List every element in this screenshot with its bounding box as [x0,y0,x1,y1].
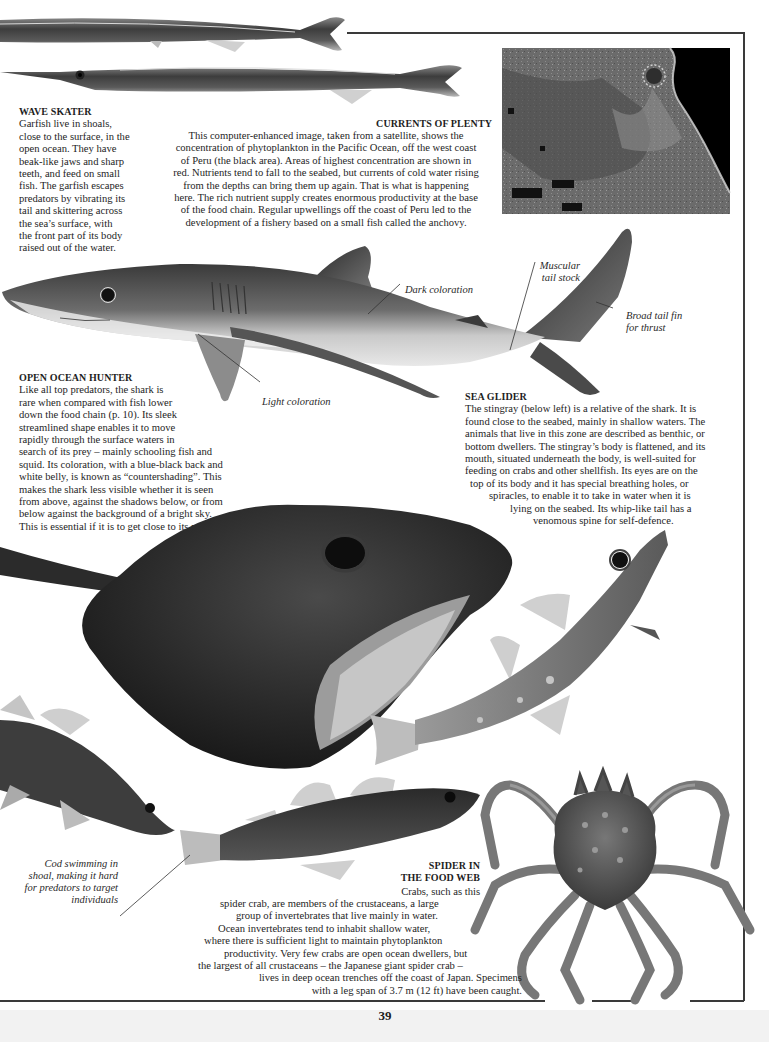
spider-food-web-body: spider crab, are members of the crustace… [204,898,522,997]
broad-tail-fin-label: Broad tail fin for thrust [626,310,726,334]
spider-food-web-first-line: Crabs, such as this [380,886,480,898]
cod-caption-line: shoal, making it hard [0,870,118,882]
frame-bottom-rule-left [0,1000,545,1002]
sea-glider-line: animals that live in this zone are descr… [465,428,740,440]
sea-glider-line: bottom dwellers. The stingray’s body is … [465,441,740,453]
muscular-tail-stock-line: tail stock [500,272,580,284]
currents-line: concentration of phytoplankton in the Pa… [156,142,496,154]
cod-caption-line: individuals [0,894,118,906]
hunter-line: squid. Its coloration, with a blue-black… [19,459,249,471]
dark-coloration-label: Dark coloration [405,284,473,296]
hunter-line: down the food chain (p. 10). Its sleek [19,409,249,421]
garfish-bottom-image [0,60,470,110]
spider-line: group of invertebrates that live mainly … [204,910,522,922]
cod-caption: Cod swimming in shoal, making it hard fo… [0,858,118,906]
sea-glider-line: feeding on crabs and other shellfish. It… [465,465,740,477]
broad-tail-fin-line: Broad tail fin [626,310,726,322]
wave-skater-line: open ocean. They have [19,143,169,155]
spider-line: lives in deep ocean trenches off the coa… [204,972,522,984]
wave-skater-line: predators by vibrating its [19,193,169,205]
spider-line: the largest of all crustaceans – the Jap… [198,960,522,972]
spider-food-web-heading-block: SPIDER IN THE FOOD WEB [380,860,480,885]
spider-line: spider crab, are members of the crustace… [204,898,522,910]
hunter-line: white belly, is known as “countershading… [19,471,249,483]
currents-line: here. The rich nutrient supply creates e… [156,192,496,204]
spider-line: with a leg span of 3.7 m (12 ft) have be… [204,985,522,997]
satellite-image [502,48,730,214]
cod-caption-line: for predators to target [0,882,118,894]
currents-line: from the depths can bring them up again.… [156,180,496,192]
spider-heading-line: THE FOOD WEB [380,872,480,884]
muscular-tail-stock-line: Muscular [500,260,580,272]
wave-skater-line: Garfish live in shoals, [19,118,169,130]
hunter-line: streamlined shape enables it to move [19,422,249,434]
spider-line: productivity. Very few crabs are open oc… [204,948,522,960]
sea-glider-line: mouth, situated underneath the body, is … [465,453,740,465]
wave-skater-line: teeth, and feed on small [19,168,169,180]
wave-skater-line: tail and skittering across [19,205,169,217]
hunter-line: Like all top predators, the shark is [19,384,249,396]
currents-line: red. Nutrients tend to fall to the seabe… [156,167,496,179]
spider-line: Ocean invertebrates tend to inhabit shal… [204,923,522,935]
page-number: 39 [370,1008,400,1024]
cod-left-image [0,690,180,840]
cod-caption-pointer-line [120,850,200,920]
hunter-line: makes the shark less visible whether it … [19,484,249,496]
light-coloration-label: Light coloration [262,396,331,408]
currents-of-plenty-body: This computer-enhanced image, taken from… [156,130,496,229]
sea-glider-line: top of its body and it has special breat… [465,478,740,490]
hunter-line: rapidly through the surface waters in [19,434,249,446]
wave-skater-line: beak-like jaws and sharp [19,156,169,168]
sea-glider-line: The stingray (below left) is a relative … [465,403,740,415]
sea-glider-line: found close to the seabed, mainly in sha… [465,416,740,428]
currents-line: of the food chain. Regular upwellings of… [156,204,496,216]
hunter-line: rare when compared with fish lower [19,397,249,409]
currents-line: This computer-enhanced image, taken from… [156,130,496,142]
wave-skater-line: fish. The garfish escapes [19,180,169,192]
frame-top-rule [347,32,744,34]
broad-tail-fin-line: for thrust [626,322,726,334]
currents-of-plenty-block: CURRENTS OF PLENTY [150,118,492,130]
cod-upright-image [370,530,670,770]
cod-caption-line: Cod swimming in [0,858,118,870]
wave-skater-heading: WAVE SKATER [19,106,169,118]
muscular-tail-stock-label: Muscular tail stock [500,260,580,284]
spider-line: where there is sufficient light to maint… [204,935,522,947]
hunter-line: search of its prey – mainly schooling fi… [19,446,249,458]
spider-line: Crabs, such as this [380,886,480,898]
spider-heading-line: SPIDER IN [380,860,480,872]
sea-glider-heading: SEA GLIDER [465,391,740,403]
currents-heading: CURRENTS OF PLENTY [150,118,492,130]
open-ocean-hunter-heading: OPEN OCEAN HUNTER [19,372,249,384]
sea-glider-line: spiracles, to enable it to take in water… [465,490,740,502]
garfish-top-image [0,8,350,58]
wave-skater-line: close to the surface, in the [19,131,169,143]
currents-line: of Peru (the black area). Areas of highe… [156,155,496,167]
